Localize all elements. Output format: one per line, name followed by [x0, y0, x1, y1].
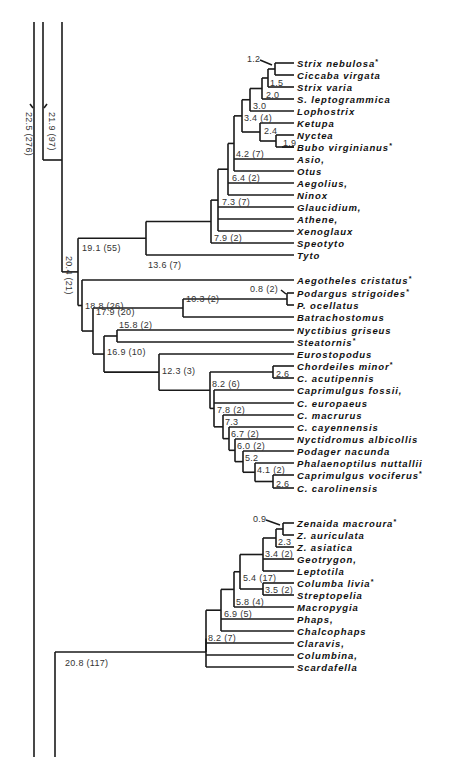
- phylogenetic-tree: Strix nebulosa*Ciccaba virgataStrix vari…: [0, 0, 458, 779]
- star-marker: *: [393, 518, 397, 525]
- taxon-label: Macropygia: [297, 602, 359, 613]
- taxon-label: Nyctibius griseus: [297, 325, 392, 336]
- taxon-label: Ketupa: [297, 118, 335, 129]
- node-label: 6.0 (2): [237, 441, 265, 451]
- taxon-label: C. carolinensis: [297, 483, 378, 494]
- root-label-20-8: 20.8 (117): [65, 658, 108, 668]
- pointer-arrow: [260, 60, 272, 65]
- taxon-label: Zenaida macroura*: [296, 518, 397, 529]
- node-label: 6.4 (2): [232, 173, 260, 183]
- node-label: 1.2: [247, 54, 260, 64]
- taxon-label: P. ocellatus: [297, 300, 359, 311]
- taxon-label: Bubo virginianus*: [297, 142, 393, 153]
- node-label: 7.8 (2): [217, 405, 245, 415]
- taxon-label: Claravis,: [297, 638, 345, 649]
- node-label: 4.1 (2): [257, 465, 285, 475]
- node-label: 1.9: [283, 138, 296, 148]
- star-marker: *: [406, 288, 410, 295]
- star-marker: *: [352, 337, 356, 344]
- pointer-arrow: [266, 520, 280, 525]
- node-label: 3.5 (2): [265, 585, 293, 595]
- taxon-label: Xenoglaux: [296, 226, 353, 237]
- taxon-label: Columba livia*: [297, 578, 374, 589]
- node-label: 4.2 (7): [236, 149, 264, 159]
- taxon-label: Phalaenoptilus nuttallii: [297, 458, 423, 469]
- node-label: 8.2 (7): [208, 633, 236, 643]
- node-label: 5.4 (17): [243, 573, 276, 583]
- node-label: 16.9 (10): [107, 347, 146, 357]
- node-label: 19.1 (55): [82, 243, 121, 253]
- taxon-label: Phaps,: [297, 614, 334, 625]
- taxon-label: Columbina,: [297, 650, 358, 661]
- star-marker: *: [370, 578, 374, 585]
- node-label: 7.3: [225, 417, 238, 427]
- taxon-label: Z. asiatica: [296, 542, 353, 553]
- root-label-22-5: 22.5 (276): [24, 112, 34, 156]
- root-label-21-9: 21.9 (97): [47, 112, 57, 151]
- star-marker: *: [375, 58, 379, 65]
- taxon-label: Tyto: [297, 250, 320, 261]
- node-label: 6.7 (2): [231, 429, 259, 439]
- node-label: 18.8 (26): [85, 301, 124, 311]
- taxon-label: Otus: [297, 166, 322, 177]
- node-label: 7.3 (7): [222, 197, 250, 207]
- node-label: 0.8 (2): [250, 284, 278, 294]
- node-label: 8.2 (6): [212, 379, 240, 389]
- node-label: 1.5: [270, 78, 283, 88]
- taxon-label: Asio,: [296, 154, 325, 165]
- taxon-label: Chalcophaps: [297, 626, 367, 637]
- taxon-label: Podargus strigoides*: [297, 288, 410, 299]
- node-label: 2.4: [264, 126, 277, 136]
- taxon-label: Caprimulgus vociferus*: [297, 470, 422, 481]
- taxon-label: Glaucidium,: [297, 202, 361, 213]
- taxon-label: Eurostopodus: [297, 349, 372, 360]
- node-label: 5.8 (4): [236, 597, 264, 607]
- taxon-label: Geotrygon,: [297, 554, 357, 565]
- taxon-label: Nyctidromus albicollis: [297, 434, 418, 445]
- node-label: 3.4 (2): [265, 549, 293, 559]
- node-label: 5.2: [245, 453, 258, 463]
- node-label: 2.6: [276, 369, 289, 379]
- node-label: 15.8 (2): [119, 320, 152, 330]
- star-marker: *: [419, 470, 423, 477]
- taxon-label: Z. auriculata: [296, 530, 365, 541]
- taxon-label: Batrachostomus: [297, 312, 385, 323]
- taxon-label: Chordeiles minor*: [297, 361, 393, 372]
- node-label: 12.3 (3): [162, 366, 195, 376]
- taxon-label: C. europaeus: [297, 398, 368, 409]
- taxon-label: Streptopelia: [297, 590, 363, 601]
- star-marker: *: [408, 275, 412, 282]
- pointer-arrow: [30, 104, 33, 108]
- node-label: 13.6 (7): [148, 260, 181, 270]
- root-label-20-4: 20.4 (21): [64, 256, 74, 295]
- taxon-label: Leptotila: [297, 566, 345, 577]
- star-marker: *: [389, 142, 393, 149]
- taxon-label: Strix nebulosa*: [297, 58, 379, 69]
- taxon-label: Speotyto: [297, 238, 345, 249]
- taxon-label: Caprimulgus fossii,: [297, 385, 402, 396]
- node-label: 2.6: [276, 479, 289, 489]
- taxon-label: Scardafella: [297, 662, 358, 673]
- taxon-label: Strix varia: [297, 82, 353, 93]
- node-label: 2.0: [266, 90, 279, 100]
- taxon-label: C. acutipennis: [297, 373, 375, 384]
- pointer-arrow: [281, 290, 286, 294]
- node-label: 0.9: [253, 514, 266, 524]
- pointer-arrow: [44, 104, 47, 108]
- node-label: 3.0: [253, 101, 266, 111]
- taxon-label: Ciccaba virgata: [297, 70, 381, 81]
- node-label: 6.9 (5): [224, 609, 252, 619]
- node-label: 3.4 (4): [244, 113, 272, 123]
- taxon-label: C. macrurus: [297, 410, 362, 421]
- taxon-label: Athene,: [296, 214, 338, 225]
- taxon-label: S. leptogrammica: [297, 94, 391, 105]
- taxon-label: Nyctea: [297, 130, 334, 141]
- node-label: 7.9 (2): [214, 233, 242, 243]
- taxon-label: Aegolius,: [296, 178, 348, 189]
- taxon-label: Lophostrix: [297, 106, 355, 117]
- taxon-label: Ninox: [297, 190, 328, 201]
- star-marker: *: [390, 361, 394, 368]
- taxon-label: C. cayennensis: [297, 422, 379, 433]
- taxon-label: Steatornis*: [297, 337, 356, 348]
- taxon-label: Aegotheles cristatus*: [296, 275, 412, 286]
